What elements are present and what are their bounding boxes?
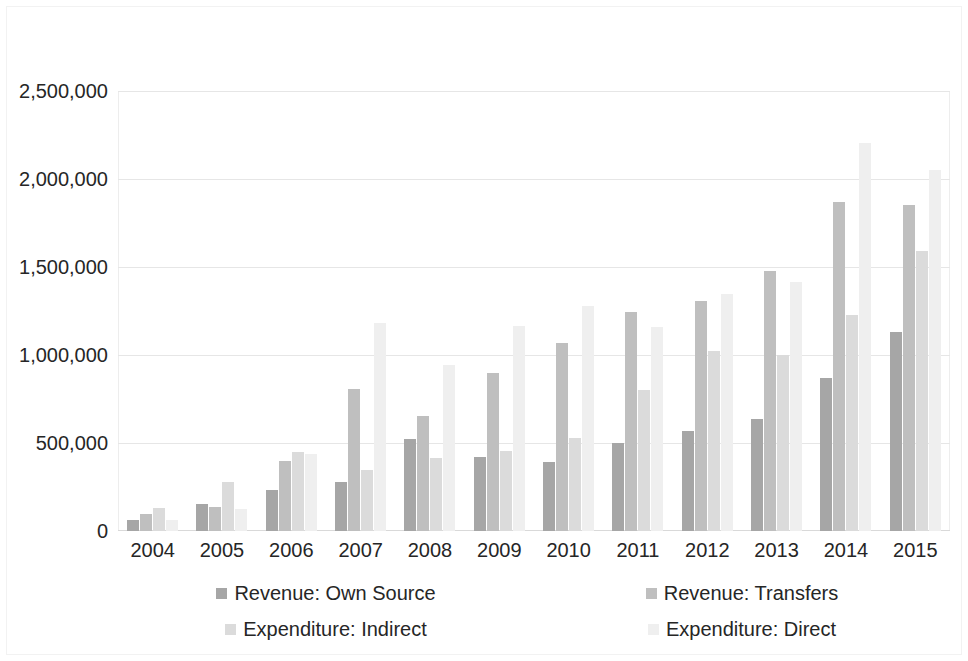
bar[interactable] bbox=[487, 373, 499, 531]
bar[interactable] bbox=[404, 439, 416, 531]
legend-swatch-icon bbox=[225, 624, 236, 635]
x-tick-label: 2008 bbox=[395, 536, 464, 566]
y-tick-label: 500,000 bbox=[0, 433, 108, 453]
bar[interactable] bbox=[443, 365, 455, 531]
chart-canvas: 0500,0001,000,0001,500,0002,000,0002,500… bbox=[0, 0, 968, 661]
bar-group bbox=[187, 91, 256, 531]
bar[interactable] bbox=[348, 389, 360, 531]
bar[interactable] bbox=[279, 461, 291, 531]
legend-entry[interactable]: Expenditure: Indirect bbox=[118, 611, 534, 647]
bar[interactable] bbox=[374, 323, 386, 531]
x-tick-label: 2011 bbox=[603, 536, 672, 566]
bar[interactable] bbox=[569, 438, 581, 531]
bar[interactable] bbox=[916, 251, 928, 531]
bar[interactable] bbox=[196, 504, 208, 531]
bar[interactable] bbox=[612, 443, 624, 531]
legend-entry-inner: Expenditure: Indirect bbox=[225, 618, 426, 640]
bar-group bbox=[881, 91, 950, 531]
bar[interactable] bbox=[292, 452, 304, 531]
legend-swatch-icon bbox=[216, 588, 227, 599]
bar-group bbox=[811, 91, 880, 531]
legend-entry-inner: Revenue: Own Source bbox=[216, 582, 435, 604]
bar[interactable] bbox=[513, 326, 525, 531]
bar-group bbox=[395, 91, 464, 531]
x-tick-label: 2006 bbox=[257, 536, 326, 566]
bar[interactable] bbox=[638, 390, 650, 531]
bar[interactable] bbox=[695, 301, 707, 531]
x-tick-label: 2009 bbox=[465, 536, 534, 566]
bar[interactable] bbox=[222, 482, 234, 531]
bar-group bbox=[534, 91, 603, 531]
bar[interactable] bbox=[153, 508, 165, 531]
bar[interactable] bbox=[890, 332, 902, 531]
bar[interactable] bbox=[625, 312, 637, 531]
x-tick-label: 2013 bbox=[742, 536, 811, 566]
bar[interactable] bbox=[582, 306, 594, 531]
bar[interactable] bbox=[166, 520, 178, 531]
bar[interactable] bbox=[235, 509, 247, 531]
bar[interactable] bbox=[859, 143, 871, 531]
plot-area bbox=[118, 91, 950, 531]
legend-entry[interactable]: Revenue: Own Source bbox=[118, 575, 534, 611]
bar[interactable] bbox=[266, 490, 278, 531]
bar[interactable] bbox=[777, 355, 789, 531]
x-tick-label: 2012 bbox=[673, 536, 742, 566]
x-tick-label: 2014 bbox=[811, 536, 880, 566]
bar[interactable] bbox=[335, 482, 347, 531]
chart-legend: Revenue: Own SourceRevenue: TransfersExp… bbox=[118, 575, 950, 647]
bar[interactable] bbox=[929, 170, 941, 531]
bar[interactable] bbox=[651, 327, 663, 531]
legend-swatch-icon bbox=[648, 624, 659, 635]
bar[interactable] bbox=[140, 514, 152, 531]
legend-label: Revenue: Transfers bbox=[664, 582, 839, 604]
legend-label: Expenditure: Indirect bbox=[243, 618, 426, 640]
x-tick-label: 2007 bbox=[326, 536, 395, 566]
legend-swatch-icon bbox=[646, 588, 657, 599]
x-tick-label: 2015 bbox=[881, 536, 950, 566]
legend-label: Revenue: Own Source bbox=[234, 582, 435, 604]
bar[interactable] bbox=[474, 457, 486, 531]
bar-group bbox=[118, 91, 187, 531]
legend-entry-inner: Revenue: Transfers bbox=[646, 582, 839, 604]
bar[interactable] bbox=[903, 205, 915, 531]
bar-group bbox=[603, 91, 672, 531]
bar[interactable] bbox=[790, 282, 802, 531]
bar[interactable] bbox=[764, 271, 776, 531]
bar[interactable] bbox=[682, 431, 694, 531]
bar[interactable] bbox=[417, 416, 429, 531]
legend-entry[interactable]: Expenditure: Direct bbox=[534, 611, 950, 647]
bar[interactable] bbox=[305, 454, 317, 531]
y-tick-label: 0 bbox=[0, 521, 108, 541]
legend-entry[interactable]: Revenue: Transfers bbox=[534, 575, 950, 611]
x-tick-label: 2005 bbox=[187, 536, 256, 566]
bar-group bbox=[465, 91, 534, 531]
bar[interactable] bbox=[751, 419, 763, 531]
y-tick-label: 1,500,000 bbox=[0, 257, 108, 277]
bar[interactable] bbox=[708, 351, 720, 531]
y-axis: 0500,0001,000,0001,500,0002,000,0002,500… bbox=[0, 91, 108, 531]
x-tick-label: 2004 bbox=[118, 536, 187, 566]
bar[interactable] bbox=[721, 294, 733, 531]
x-tick-label: 2010 bbox=[534, 536, 603, 566]
bars-layer bbox=[118, 91, 950, 531]
y-tick-label: 1,000,000 bbox=[0, 345, 108, 365]
bar[interactable] bbox=[833, 202, 845, 531]
bar[interactable] bbox=[543, 462, 555, 531]
bar[interactable] bbox=[127, 520, 139, 531]
bar-group bbox=[326, 91, 395, 531]
x-axis: 2004200520062007200820092010201120122013… bbox=[118, 536, 950, 566]
bar[interactable] bbox=[430, 458, 442, 531]
bar-group bbox=[257, 91, 326, 531]
legend-label: Expenditure: Direct bbox=[666, 618, 836, 640]
bar-group bbox=[673, 91, 742, 531]
bar[interactable] bbox=[209, 507, 221, 531]
bar[interactable] bbox=[820, 378, 832, 531]
bar[interactable] bbox=[361, 470, 373, 531]
bar[interactable] bbox=[556, 343, 568, 531]
bar[interactable] bbox=[500, 451, 512, 531]
y-tick-label: 2,500,000 bbox=[0, 81, 108, 101]
bar[interactable] bbox=[846, 315, 858, 531]
legend-entry-inner: Expenditure: Direct bbox=[648, 618, 836, 640]
y-tick-label: 2,000,000 bbox=[0, 169, 108, 189]
bar-group bbox=[742, 91, 811, 531]
